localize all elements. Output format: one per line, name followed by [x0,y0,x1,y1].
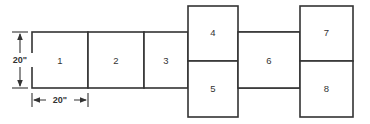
vertical-dimension: 20" [7,32,33,88]
room-box-6-label: 6 [266,55,271,66]
room-layout-diagram: 1 2 3 4 5 6 7 8 20" [0,0,370,124]
vertical-dimension-arrow-down-icon [17,80,23,87]
horizontal-dimension-label: 20" [53,95,67,105]
vertical-dimension-label: 20" [13,55,27,65]
room-box-1-label: 1 [57,55,62,66]
room-box-7-label: 7 [324,27,329,38]
room-box-5-label: 5 [210,83,215,94]
room-box-4-label: 4 [210,27,215,38]
room-box-8-label: 8 [324,83,329,94]
room-box-3-label: 3 [163,55,168,66]
horizontal-dimension: 20" [32,93,88,107]
room-box-2-label: 2 [113,55,118,66]
vertical-dimension-arrow-up-icon [17,33,23,40]
horizontal-dimension-arrow-left-icon [33,97,40,102]
diagram-canvas: 1 2 3 4 5 6 7 8 20" [0,0,370,124]
horizontal-dimension-arrow-right-icon [80,97,87,102]
